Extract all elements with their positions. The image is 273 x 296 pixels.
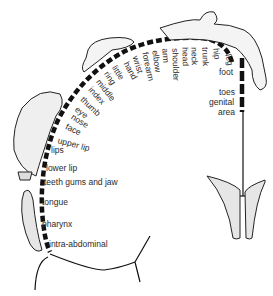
label-trunk: trunk xyxy=(201,47,210,66)
label-shoulder: shoulder xyxy=(171,48,181,81)
jaw-figure xyxy=(18,172,32,180)
label-tongue: tongue xyxy=(42,198,68,207)
label-neck: neck xyxy=(190,47,199,65)
label-genital: genital xyxy=(209,98,234,107)
label-lips: lips xyxy=(51,146,64,155)
homunculus-illustration xyxy=(0,0,273,296)
label-toes: toes xyxy=(219,88,235,97)
label-arm: arm xyxy=(161,48,171,63)
label-lower-lip: lower lip xyxy=(46,164,77,173)
label-teeth: teeth gums and jaw xyxy=(44,178,118,187)
label-pharynx: pharynx xyxy=(42,220,72,229)
label-leg: leg xyxy=(224,53,235,66)
label-area: area xyxy=(218,108,235,117)
label-hip: hip xyxy=(212,48,222,60)
label-foot: foot xyxy=(219,68,233,77)
tongue-figure xyxy=(22,190,42,251)
label-intra-abdominal: intra-abdominal xyxy=(49,240,108,249)
ventricle-left xyxy=(207,176,240,239)
ventricle-right xyxy=(245,180,265,239)
